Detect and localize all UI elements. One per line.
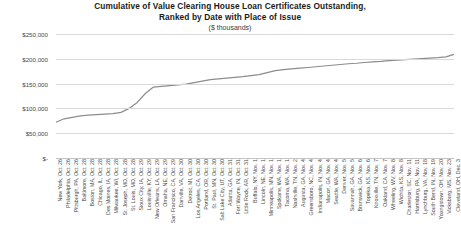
x-axis-tick-label: Sioux City, IA, Oct. 29 [139,159,144,210]
x-axis-tick-label: Detroit, MI, Oct. 30 [188,159,193,203]
x-axis-tick-label: Vicksburg, MS, Nov. 23 [447,159,452,214]
y-axis-tick-label: $50,000 [26,130,48,137]
x-axis-tick-label: Harrisburg, PA, Nov. 11 [415,159,420,214]
y-axis-tick-label: $- [42,155,48,162]
series-line [56,54,454,122]
x-axis-tick-label: Greensboro, NC, Nov. 4 [309,159,314,215]
x-axis-tick-label: Lincoln, NE, Nov. 1 [261,159,266,204]
gridline [56,84,454,85]
x-axis-tick-label: Philadelphia, Oct. 26 [66,159,71,208]
x-axis-tick-label: Charleston, SC, Nov. 11 [407,159,412,215]
y-axis-tick-label: $200,000 [22,55,48,62]
x-axis-tick-label: Louisville, KY, Oct. 29 [147,159,152,210]
x-axis-tick-label: Tacoma, WA, Nov. 1 [285,159,290,207]
x-axis-tick-label: Savannah, GA, Nov. 5 [350,159,355,211]
x-axis-tick-label: Cleveland, OH, Dec. 3 [456,159,461,212]
x-axis-tick-label: Oakland, CA, Nov. 7 [383,159,388,207]
x-axis-tick-label: Chicago, IL, Oct. 28 [98,159,103,206]
y-axis-tick-label: $250,000 [22,31,48,38]
gridline [56,34,454,35]
x-axis-tick-label: Boston, MA, Oct. 28 [90,159,95,206]
x-axis-tick-label: Youngstown, OH, Nov. 20 [439,159,444,219]
x-axis-tick-label: Des Moines, IA, Oct. 28 [106,159,111,215]
x-axis-tick-label: South Bend, IN, Nov. 19 [431,159,436,216]
x-axis-tick-label: St. Paul, MN, Oct. 30 [212,159,217,209]
x-axis-tick-label: Augusta, GA, Nov. 4 [301,159,306,207]
x-axis-tick-label: Wichita, KS, Nov. 8 [399,159,404,204]
x-axis-tick-label: Minneapolis, MN, Nov. 1 [269,159,274,216]
chart-title-line-1: Cumulative of Value Clearing House Loan … [0,1,460,12]
chart-title-block: Cumulative of Value Clearing House Loan … [0,1,460,33]
x-axis-tick-label: St. Louis, MO, Oct. 28 [131,159,136,211]
x-axis-tick-label: San Francisco, CA, Oct. 29 [171,159,176,223]
x-axis-tick-label: Knoxville, TN, Nov. 7 [374,159,379,208]
x-axis-tick-label: Omaha, NE, Oct. 29 [163,159,168,207]
x-axis-tick-label: St. Joseph, MO, Oct. 28 [123,159,128,216]
chart-subtitle: ($ thousands) [0,23,460,33]
x-axis-tick-label: Seattle, WA, Nov. 4 [334,159,339,205]
x-axis-tick-label: Lynchburg, VA, Nov. 18 [423,159,428,214]
gridline [56,108,454,109]
x-axis-tick-label: Fort Wayne, IN, Oct. 31 [236,159,241,214]
gridline [56,59,454,60]
x-axis-tick-label: New York, Oct. 26 [58,159,63,201]
x-axis-tick-label: Atlanta, GA, Oct. 31 [228,159,233,206]
x-axis-tick-label: Little Rock, AR, Oct. 31 [244,159,249,214]
x-axis-tick-label: Wheeling, WV, Nov. 8 [391,159,396,210]
x-axis-tick-label: Portland, OR, Oct. 30 [204,159,209,210]
x-axis-tick-label: Spokane, WA, Nov. 1 [277,159,282,209]
chart-title-line-2: Ranked by Date with Place of Issue [0,12,460,23]
x-axis-tick-label: Pittsburgh, PA, Oct. 26 [74,159,79,212]
x-axis-labels: New York, Oct. 26Philadelphia, Oct. 26Pi… [56,159,454,245]
line-series [56,34,454,158]
y-axis-labels: $-$50,000$100,000$150,000$200,000$250,00… [0,34,52,158]
x-axis-tick-label: Topeka, KS, Nov. 6 [366,159,371,204]
x-axis-tick-label: Los Angeles, CA, Oct. 30 [196,159,201,218]
x-axis-tick-label: Milwaukee, WI, Oct. 28 [114,159,119,213]
x-axis-tick-label: Indianapolis, IN, Nov. 4 [318,159,323,213]
x-axis-tick-label: Salt Lake City, UT, Oct. 30 [220,159,225,221]
x-axis-tick-label: Brunswick, GA, Nov. 6 [358,159,363,212]
plot-area [56,34,454,158]
x-axis-tick-label: Macon, GA, Nov. 4 [326,159,331,203]
x-axis-tick-label: Denver, Nov. 5 [342,159,347,194]
x-axis-tick-label: Nashville, TN, Nov. 2 [293,159,298,208]
y-axis-tick-label: $150,000 [22,80,48,87]
gridline [56,133,454,134]
x-axis-tick-label: Baltimore, Oct. 28 [82,159,87,201]
x-axis-tick-label: Buffalo, NY, Nov. 1 [253,159,258,203]
x-axis-tick-label: New Orleans, LA, Oct. 29 [155,159,160,219]
x-axis-tick-label: Danville, VA, Oct. 30 [179,159,184,207]
y-axis-tick-label: $100,000 [22,105,48,112]
